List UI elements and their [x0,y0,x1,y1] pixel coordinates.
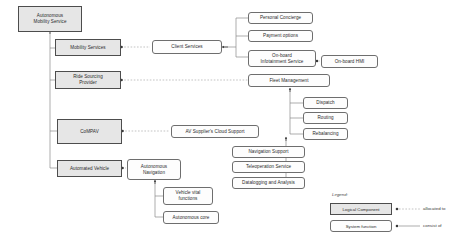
node-mobility-services[interactable]: Mobility Services [55,39,121,56]
node-dispatch[interactable]: Dispatch [303,97,348,109]
node-autonomous-mobility-service[interactable]: AutonomousMobility Service [18,6,82,32]
tree-fleet-management [290,90,303,134]
legend-logical-component-swatch: Logical Component [330,203,392,215]
node-onboard-infotainment-service[interactable]: On-boardInfotainment Service [248,50,316,67]
node-vehicle-vital-functions[interactable]: Vehicle vitalfunctions [163,187,213,205]
legend-allocated-to-label: allocated to [423,206,445,211]
tree-client-services [224,18,248,57]
node-autonomous-core[interactable]: Autonomous core [163,211,219,224]
node-ride-sourcing-provider[interactable]: Ride SourcingProvider [55,71,121,89]
legend-consist-of-label: consist of [423,223,442,228]
node-automated-vehicle[interactable]: Automated Vehicle [57,160,122,177]
node-personal-concierge[interactable]: Personal Concierge [248,12,313,24]
node-onboard-hmi[interactable]: On-board HMI [321,55,378,68]
legend-connectors [396,208,420,228]
legend-title: Legend: [332,192,348,197]
node-payment-options[interactable]: Payment options [248,30,313,42]
node-av-supplier-cloud-support[interactable]: AV Supplier's Cloud Support [171,125,259,138]
node-rebalancing[interactable]: Rebalancing [303,128,348,140]
tree-autonomous-navigation [155,182,163,217]
node-teleoperation-service[interactable]: Teleoperation Service [232,161,305,173]
node-fleet-management[interactable]: Fleet Management [248,74,330,87]
legend-system-function-swatch: System function [330,220,392,232]
node-datalogging-and-analysis[interactable]: Datalogging and Analysis [232,177,305,189]
node-client-services[interactable]: Client Services [152,40,222,54]
node-compav[interactable]: CoMPAV [57,119,122,144]
diagram-canvas: AutonomousMobility Service Mobility Serv… [0,0,458,240]
node-autonomous-navigation[interactable]: AutonomousNavigation [127,159,181,180]
node-navigation-support[interactable]: Navigation Support [232,146,305,158]
node-routing[interactable]: Routing [303,112,348,124]
